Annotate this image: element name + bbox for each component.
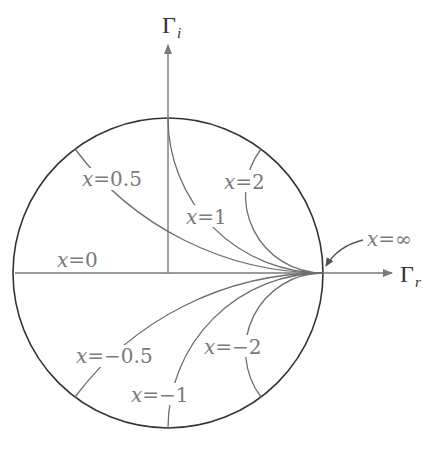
label-x-2: x=2 (222, 170, 268, 194)
x-infinity-pointer-arrow (326, 240, 363, 266)
svg-text:x=0: x=0 (57, 248, 98, 272)
svg-text:x=1: x=1 (186, 205, 227, 229)
label-x-m1: x=−1 (129, 383, 199, 407)
label-x-0-5: x=0.5 (80, 167, 146, 191)
reactance-arc-x-2 (245, 149, 323, 273)
label-x-m2: x=−2 (202, 335, 274, 359)
label-x-m0-5: x=−0.5 (74, 344, 166, 368)
svg-text:x=0.5: x=0.5 (82, 167, 142, 191)
svg-text:x=−2: x=−2 (204, 335, 262, 359)
svg-text:x=∞: x=∞ (367, 227, 412, 251)
smith-chart-diagram: Γi Γr x=0.5 x=1 x=2 x=0 x=∞ x=−0.5 x=−1 … (0, 0, 435, 450)
svg-text:x=−0.5: x=−0.5 (76, 344, 153, 368)
svg-text:x=−1: x=−1 (131, 383, 189, 407)
imaginary-axis-label: Γi (162, 12, 181, 41)
real-axis-label: Γr (400, 261, 421, 290)
svg-text:x=2: x=2 (224, 170, 265, 194)
label-x-0: x=0 (57, 248, 98, 272)
label-x-infinity: x=∞ (367, 227, 412, 251)
label-x-1: x=1 (184, 205, 228, 229)
